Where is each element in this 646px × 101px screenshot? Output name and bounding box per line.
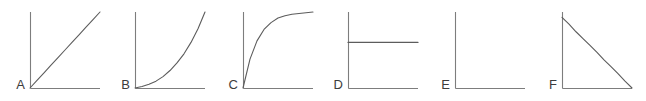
panel-d: D [334,12,418,92]
curve-f [562,17,632,88]
multi-panel-line-chart-figure: ABCDEF [0,0,646,101]
curve-c [243,12,313,88]
curve-b [135,12,205,88]
panel-label-b: B [121,77,130,92]
panel-c: C [229,12,313,92]
panel-f: F [549,12,632,92]
panel-b: B [121,12,205,92]
panel-label-e: E [441,77,450,92]
panel-label-a: A [16,77,25,92]
panel-a: A [16,12,100,92]
panel-e: E [441,12,525,92]
curve-a [30,12,100,88]
panel-label-d: D [334,77,343,92]
chart-canvas: ABCDEF [0,0,646,101]
panel-label-f: F [549,77,557,92]
panel-label-c: C [229,77,238,92]
